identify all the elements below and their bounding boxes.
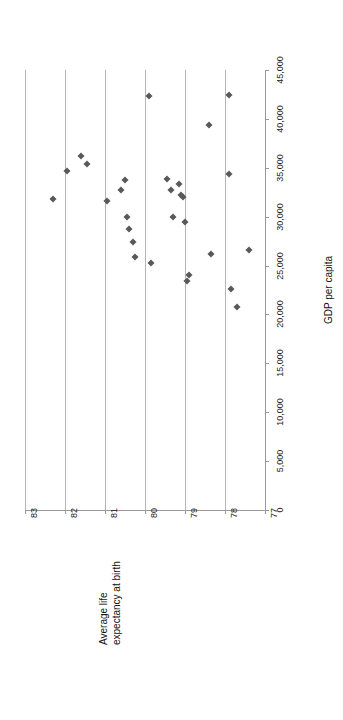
life-expectancy-axis-line xyxy=(265,70,266,511)
data-point-marker xyxy=(175,181,182,188)
data-point-marker xyxy=(125,226,132,233)
gdp-tick-label: 35,000 xyxy=(275,154,285,182)
gdp-tick-label: 25,000 xyxy=(275,252,285,280)
data-point-marker xyxy=(227,285,234,292)
gdp-tick-label: 40,000 xyxy=(275,105,285,133)
gdp-tick-label: 15,000 xyxy=(275,350,285,378)
data-point-marker xyxy=(233,303,240,310)
gridline xyxy=(25,70,26,510)
gridline xyxy=(65,70,66,510)
data-point-marker xyxy=(131,253,138,260)
data-point-marker xyxy=(49,196,56,203)
plot-area xyxy=(25,70,265,510)
gdp-axis-title: GDP per capita xyxy=(323,256,335,324)
gdp-tick-mark xyxy=(265,119,269,120)
data-point-marker xyxy=(167,187,174,194)
gdp-tick-mark xyxy=(265,314,269,315)
life-expectancy-tick-mark xyxy=(225,510,226,514)
gdp-tick-label: 0 xyxy=(275,507,285,512)
life-expectancy-tick-mark xyxy=(25,510,26,514)
gdp-tick-label: 20,000 xyxy=(275,301,285,329)
life-expectancy-tick-mark xyxy=(145,510,146,514)
data-point-marker xyxy=(123,213,130,220)
gdp-tick-mark xyxy=(265,266,269,267)
data-point-marker xyxy=(205,121,212,128)
gridline xyxy=(105,70,106,510)
gdp-tick-mark xyxy=(265,217,269,218)
life-expectancy-tick-label: 83 xyxy=(29,508,39,518)
life-expectancy-tick-label: 78 xyxy=(229,508,239,518)
data-point-marker xyxy=(163,175,170,182)
gdp-tick-label: 10,000 xyxy=(275,398,285,426)
gdp-tick-mark xyxy=(265,363,269,364)
data-point-marker xyxy=(169,213,176,220)
life-expectancy-axis-title-line2: expectancy at birth xyxy=(110,561,123,645)
data-point-marker xyxy=(129,239,136,246)
data-point-marker xyxy=(77,152,84,159)
life-expectancy-axis-title: Average lifeexpectancy at birth xyxy=(97,561,123,645)
life-expectancy-tick-mark xyxy=(65,510,66,514)
data-point-marker xyxy=(225,170,232,177)
life-expectancy-tick-label: 80 xyxy=(149,508,159,518)
gdp-tick-mark xyxy=(265,70,269,71)
gridline xyxy=(185,70,186,510)
data-point-marker xyxy=(245,246,252,253)
life-expectancy-tick-mark xyxy=(105,510,106,514)
data-point-marker xyxy=(121,176,128,183)
data-point-marker xyxy=(207,250,214,257)
data-point-marker xyxy=(181,218,188,225)
data-point-marker xyxy=(147,259,154,266)
life-expectancy-tick-label: 82 xyxy=(69,508,79,518)
data-point-marker xyxy=(145,93,152,100)
gridline xyxy=(225,70,226,510)
gridline xyxy=(145,70,146,510)
gdp-tick-label: 45,000 xyxy=(275,56,285,84)
life-expectancy-tick-label: 79 xyxy=(189,508,199,518)
life-expectancy-tick-mark xyxy=(185,510,186,514)
gdp-tick-mark xyxy=(265,461,269,462)
scatter-chart: 83828180797877 05,00010,00015,00020,0002… xyxy=(0,0,343,720)
gdp-tick-label: 30,000 xyxy=(275,203,285,231)
gdp-tick-label: 5,000 xyxy=(275,450,285,473)
life-expectancy-axis-title-line1: Average life xyxy=(97,561,110,645)
data-point-marker xyxy=(117,187,124,194)
gdp-tick-mark xyxy=(265,168,269,169)
data-point-marker xyxy=(225,92,232,99)
gdp-tick-mark xyxy=(265,412,269,413)
life-expectancy-tick-label: 81 xyxy=(109,508,119,518)
data-point-marker xyxy=(83,160,90,167)
